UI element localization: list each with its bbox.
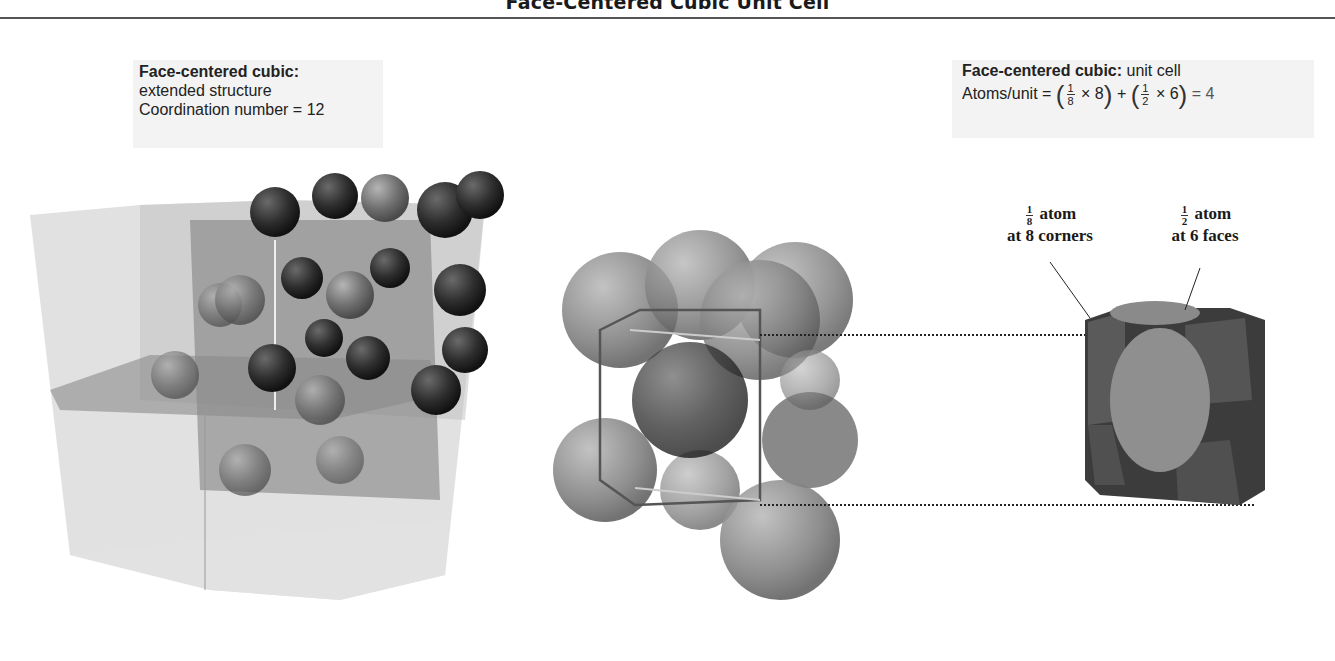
extended-structure: [30, 171, 504, 600]
fcc-illustration: [0, 0, 1335, 661]
unit-cell-spheres: [553, 230, 858, 600]
unit-cell-cutaway: [1050, 262, 1265, 505]
